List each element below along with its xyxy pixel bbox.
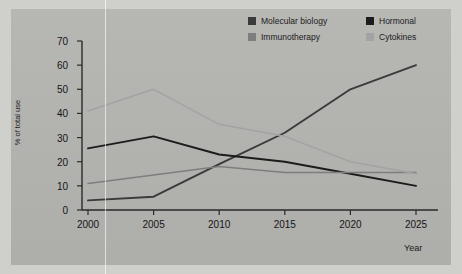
legend-swatch-icon [248,17,256,25]
axis-lines [77,41,438,215]
legend-swatch-icon [248,33,256,41]
series-line-molecular-biology [88,65,416,200]
legend-swatch-icon [366,17,374,25]
legend-label: Molecular biology [261,16,327,26]
legend-item-molecular-biology: Molecular biology [248,16,366,26]
series-line-hormonal [88,136,416,186]
legend-label: Hormonal [379,16,416,26]
chart-screenshot: % of total use Year 010203040506070 2000… [0,0,462,274]
legend-item-immunotherapy: Immunotherapy [248,32,366,42]
legend-label: Cytokines [379,32,416,42]
legend-swatch-icon [366,33,374,41]
legend-item-hormonal: Hormonal [366,16,448,26]
series-line-immunotherapy [88,167,416,184]
chart-legend: Molecular biology Hormonal Immunotherapy… [248,13,448,45]
series-line-cytokines [88,89,416,173]
legend-item-cytokines: Cytokines [366,32,448,42]
series-lines [88,65,416,200]
legend-label: Immunotherapy [261,32,320,42]
